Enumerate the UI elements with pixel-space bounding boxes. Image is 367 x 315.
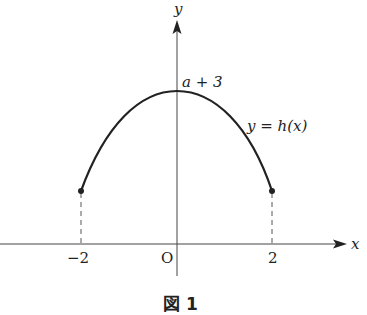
tick-label-neg2: −2 [67, 249, 89, 267]
curve-label: y = h(x) [246, 117, 308, 135]
x-axis-label: x [351, 235, 360, 253]
tick-label-2: 2 [268, 249, 278, 267]
endpoint-right [269, 188, 275, 194]
figure-caption: 図 1 [163, 294, 198, 314]
y-axis-label: y [173, 0, 183, 18]
figure-canvas: y x a + 3 y = h(x) −2 O 2 図 1 [0, 0, 367, 315]
vertex-label: a + 3 [182, 73, 223, 91]
origin-label: O [161, 249, 173, 267]
endpoint-left [78, 188, 84, 194]
